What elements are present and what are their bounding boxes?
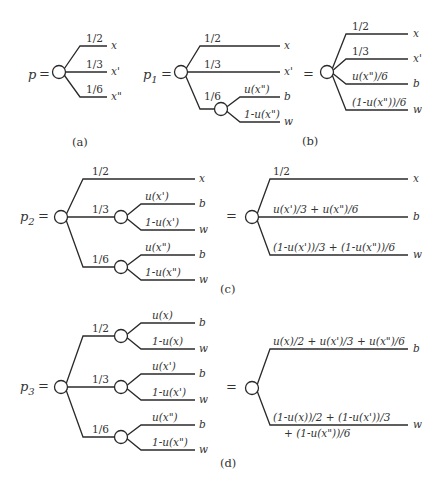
- outcome-label: x': [111, 65, 120, 77]
- panel-caption: (c): [220, 282, 235, 296]
- prob-label: u(x)/2 + u(x')/3 + u(x")/6: [273, 335, 405, 347]
- prob-label: 1/2: [352, 20, 369, 32]
- branch-line: [65, 179, 195, 217]
- outcome-label: b: [413, 210, 420, 222]
- prob-label: 1/2: [92, 322, 109, 334]
- prob-label: u(x'): [145, 190, 169, 202]
- branch-line: [184, 46, 280, 72]
- prob-label: u(x"): [244, 83, 270, 95]
- prob-label: 1/3: [352, 45, 369, 57]
- prob-label: 1/3: [92, 373, 109, 385]
- chance-node: [55, 211, 68, 224]
- prob-label: (1-u(x"))/6: [352, 96, 407, 108]
- prob-label: + (1-u(x"))/6: [284, 427, 351, 439]
- prob-label: 1/3: [92, 203, 109, 215]
- outcome-label: b: [199, 418, 206, 430]
- prob-label: 1-u(x'): [152, 386, 186, 398]
- prob-label: 1-u(x'): [145, 216, 179, 228]
- prob-label: 1/2: [92, 165, 109, 177]
- prob-label: u(x")/6: [352, 70, 388, 82]
- chance-node: [321, 66, 334, 79]
- prob-label: 1/3: [204, 58, 221, 70]
- chance-node: [215, 103, 228, 116]
- panel-caption: (b): [302, 134, 318, 148]
- prob-label: 1/2: [86, 32, 103, 44]
- outcome-label: w: [413, 248, 422, 260]
- outcome-label: w: [284, 115, 293, 127]
- chance-node: [246, 211, 259, 224]
- prob-label: 1/3: [86, 58, 103, 70]
- outcome-label: w: [199, 342, 208, 354]
- chance-node: [115, 261, 128, 274]
- chance-node: [115, 211, 128, 224]
- outcome-label: b: [413, 342, 420, 354]
- chance-node: [246, 382, 259, 395]
- outcome-label: b: [413, 77, 420, 89]
- panel-b: p1 = 1/2 1/3 1/6 x x' u(x") 1-u(x") b w …: [143, 20, 422, 148]
- lottery-label-p: p: [28, 67, 37, 82]
- outcome-label: w: [199, 273, 208, 285]
- prob-label: 1/2: [204, 32, 221, 44]
- outcome-label: b: [199, 316, 206, 328]
- prob-label: 1-u(x"): [244, 108, 280, 120]
- prob-label: 1/2: [273, 165, 290, 177]
- panel-a: p = 1/2 1/3 1/6 x x' x" (a): [28, 32, 122, 149]
- outcome-label: b: [199, 197, 206, 209]
- lottery-label-p3: p3: [20, 379, 35, 397]
- panel-c: p2 = 1/2 1/3 1/6 x u(x') 1-u(x') b w u(x…: [20, 165, 422, 296]
- equals-sign: =: [38, 378, 49, 393]
- prob-label: u(x')/3 + u(x")/6: [273, 203, 359, 215]
- chance-node: [115, 330, 128, 343]
- chance-node: [53, 66, 66, 79]
- prob-label: 1-u(x): [152, 335, 183, 347]
- branch-line: [256, 349, 408, 388]
- prob-label: u(x'): [152, 360, 176, 372]
- branch-line: [331, 34, 408, 72]
- outcome-label: x: [111, 39, 117, 51]
- prob-label: u(x"): [152, 411, 178, 423]
- prob-label: u(x"): [145, 241, 171, 253]
- prob-label: 1/6: [204, 90, 221, 102]
- outcome-label: w: [413, 418, 422, 430]
- outcome-label: x": [111, 90, 122, 102]
- outcome-label: x': [284, 65, 293, 77]
- chance-node: [115, 431, 128, 444]
- equals-sign: =: [38, 208, 49, 223]
- prob-label: u(x): [152, 309, 173, 321]
- chance-node: [175, 66, 188, 79]
- prob-label: (1-u(x))/2 + (1-u(x'))/3: [273, 411, 391, 423]
- lottery-diagram: p = 1/2 1/3 1/6 x x' x" (a) p1 = 1/2 1/3…: [0, 0, 443, 492]
- outcome-label: w: [413, 103, 422, 115]
- chance-node: [115, 381, 128, 394]
- lottery-label-p1: p1: [143, 67, 158, 85]
- prob-label: 1-u(x"): [152, 436, 188, 448]
- equals-sign: =: [303, 66, 314, 81]
- outcome-label: w: [199, 223, 208, 235]
- panel-caption: (d): [220, 456, 236, 470]
- prob-label: 1/6: [92, 423, 109, 435]
- equals-sign: =: [226, 379, 237, 394]
- panel-d: p3 = 1/2 1/3 1/6 u(x) 1-u(x) b w u(x') 1…: [20, 309, 422, 470]
- equals-sign: =: [226, 208, 237, 223]
- prob-label: 1-u(x"): [145, 266, 181, 278]
- outcome-label: b: [199, 248, 206, 260]
- outcome-label: x': [413, 52, 422, 64]
- equals-sign: =: [39, 66, 50, 81]
- outcome-label: x: [413, 172, 419, 184]
- equals-sign: =: [161, 66, 172, 81]
- outcome-label: b: [284, 90, 291, 102]
- outcome-label: x: [199, 172, 205, 184]
- outcome-label: b: [199, 367, 206, 379]
- prob-label: 1/6: [86, 83, 103, 95]
- outcome-label: w: [199, 443, 208, 455]
- prob-label: (1-u(x'))/3 + (1-u(x"))/6: [273, 241, 396, 253]
- outcome-label: w: [199, 393, 208, 405]
- outcome-label: x: [413, 27, 419, 39]
- outcome-label: x: [284, 39, 290, 51]
- panel-caption: (a): [72, 135, 88, 149]
- prob-label: 1/6: [92, 253, 109, 265]
- chance-node: [55, 381, 68, 394]
- lottery-label-p2: p2: [20, 209, 35, 227]
